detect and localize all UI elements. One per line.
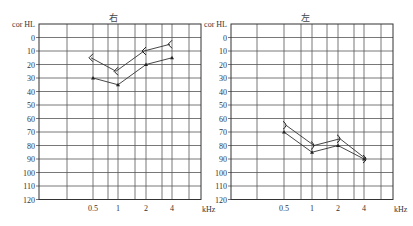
series-line	[91, 44, 170, 71]
audiogram-panel-left-ear: 0102030405060708090100110120左cor HL0.512…	[204, 12, 408, 214]
y-tick-label: 10	[27, 47, 35, 56]
x-tick-label: 4	[170, 204, 174, 213]
y-tick-label: 90	[219, 155, 227, 164]
y-tick-label: 80	[219, 142, 227, 151]
plot-frame	[39, 24, 201, 200]
audiogram-figure: 0102030405060708090100110120右cor HL0.512…	[0, 0, 413, 226]
y-tick-label: 90	[27, 155, 35, 164]
panel-title: 右	[109, 12, 118, 23]
y-tick-label: 50	[219, 101, 227, 110]
audiogram-panel-right-ear: 0102030405060708090100110120右cor HL0.512…	[12, 12, 216, 214]
y-tick-label: 100	[215, 169, 227, 178]
y-tick-label: 60	[27, 115, 35, 124]
x-tick-label: 1	[116, 204, 120, 213]
bracket-right-marker-icon	[283, 121, 286, 129]
x-tick-label: 0.5	[88, 204, 98, 213]
x-tick-label: 2	[144, 204, 148, 213]
y-tick-label: 30	[27, 74, 35, 83]
y-tick-label: 20	[219, 61, 227, 70]
y-tick-label: 120	[215, 196, 227, 205]
y-axis-label: cor HL	[204, 20, 227, 29]
y-tick-label: 10	[219, 47, 227, 56]
series-line	[93, 58, 172, 85]
triangle-marker-icon	[170, 56, 174, 60]
y-tick-label: 60	[219, 115, 227, 124]
x-tick-label: 4	[362, 204, 366, 213]
y-tick-label: 70	[27, 128, 35, 137]
y-tick-label: 40	[219, 88, 227, 97]
panel-title: 左	[301, 12, 310, 23]
x-tick-label: 2	[336, 204, 340, 213]
y-tick-label: 120	[23, 196, 35, 205]
y-tick-label: 0	[223, 34, 227, 43]
y-tick-label: 110	[23, 182, 35, 191]
y-tick-label: 0	[31, 34, 35, 43]
y-tick-label: 100	[23, 169, 35, 178]
y-tick-label: 110	[215, 182, 227, 191]
x-tick-label: 0.5	[279, 204, 289, 213]
y-tick-label: 30	[219, 74, 227, 83]
y-tick-label: 50	[27, 101, 35, 110]
y-tick-label: 20	[27, 61, 35, 70]
y-tick-label: 40	[27, 88, 35, 97]
x-axis-label: kHz	[202, 205, 216, 214]
x-tick-label: 1	[310, 204, 314, 213]
y-axis-label: cor HL	[12, 20, 35, 29]
x-axis-label: kHz	[394, 205, 408, 214]
y-tick-label: 70	[219, 128, 227, 137]
y-tick-label: 80	[27, 142, 35, 151]
